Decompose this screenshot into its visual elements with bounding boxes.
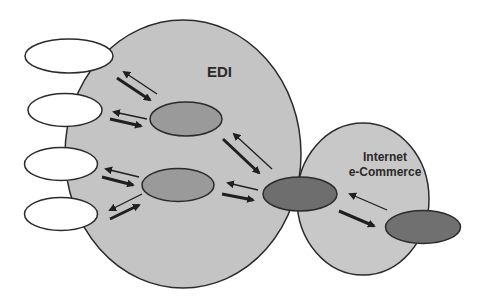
edi-label: EDI bbox=[207, 63, 232, 80]
external-partner-node-2 bbox=[28, 94, 102, 127]
edi-intermediary-node-1 bbox=[150, 102, 222, 136]
internet-label-line1: Internet bbox=[363, 150, 407, 164]
external-partner-node-3 bbox=[25, 148, 98, 181]
hub-node bbox=[263, 177, 337, 211]
internet-node bbox=[386, 211, 461, 244]
internet-label-line2: e-Commerce bbox=[349, 165, 422, 179]
diagram-canvas: EDI Internet e-Commerce bbox=[0, 0, 486, 307]
edi-intermediary-node-2 bbox=[142, 169, 214, 202]
external-partner-node-4 bbox=[25, 198, 98, 231]
external-partner-node-1 bbox=[25, 39, 113, 73]
